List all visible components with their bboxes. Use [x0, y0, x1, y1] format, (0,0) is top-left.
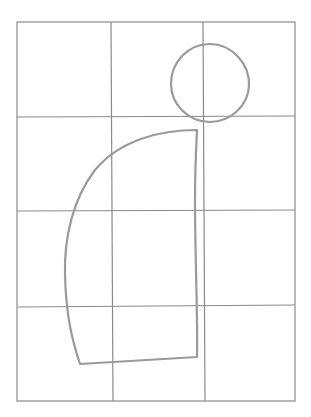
head-circle	[171, 44, 249, 122]
sketch-canvas	[0, 0, 311, 417]
grid-hline-3	[18, 305, 295, 307]
grid	[17, 22, 295, 401]
grid-hline-2	[17, 210, 295, 211]
grid-vline-1	[111, 22, 113, 401]
grid-border	[17, 22, 295, 401]
grid-hline-1	[17, 116, 295, 117]
body-shape	[65, 130, 197, 364]
grid-vline-2	[203, 22, 205, 401]
